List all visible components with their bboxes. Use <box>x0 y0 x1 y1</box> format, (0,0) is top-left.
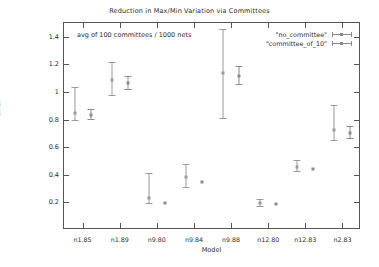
x-axis-tick-mark <box>120 223 121 228</box>
error-bar-cap-lower <box>124 89 131 90</box>
data-point <box>73 112 76 115</box>
legend-item: "no_committee" <box>266 30 353 39</box>
data-point <box>238 75 241 78</box>
legend-sample-errorbar-icon <box>331 40 353 47</box>
data-point <box>126 82 129 85</box>
y-axis-tick-mark <box>64 92 69 93</box>
y-axis-tick-label: 0.6 <box>29 143 59 151</box>
error-bar-cap-upper <box>124 76 131 77</box>
plot-inner: 0.20.40.60.811.21.4n1.85n1.89n9.80n9.84n… <box>64 23 359 228</box>
legend-item-label: "committee_of_10" <box>266 40 327 48</box>
chart-legend: "no_committee""committee_of_10" <box>266 30 353 48</box>
y-axis-tick-mark <box>64 120 69 121</box>
y-axis-tick-mark-right <box>354 64 359 65</box>
data-point <box>259 202 262 205</box>
error-bar-cap-upper <box>87 109 94 110</box>
x-axis-tick-mark-top <box>157 23 158 28</box>
plot-area: 0.20.40.60.811.21.4n1.85n1.89n9.80n9.84n… <box>63 22 360 229</box>
plot-annotation: avg of 100 committees / 1000 nets <box>77 31 191 39</box>
y-axis-tick-mark-right <box>354 37 359 38</box>
y-axis-tick-mark-right <box>354 175 359 176</box>
y-axis-tick-label: 1.4 <box>29 33 59 41</box>
x-axis-tick-label: n1.85 <box>74 236 92 243</box>
error-bar-cap-lower <box>220 118 227 119</box>
x-axis-tick-label: n9.84 <box>185 236 203 243</box>
error-bar-cap-upper <box>236 66 243 67</box>
y-axis-tick-label: 0.2 <box>29 198 59 206</box>
x-axis-label: Model <box>63 246 360 254</box>
chart-screenshot: Reduction in Max/Min Variation via Commi… <box>0 0 379 267</box>
data-point <box>89 113 92 116</box>
x-axis-tick-mark-top <box>231 23 232 28</box>
data-point <box>296 166 299 169</box>
x-axis-tick-mark-top <box>305 23 306 28</box>
x-axis-tick-mark-top <box>268 23 269 28</box>
legend-sample-errorbar-icon <box>331 31 353 38</box>
x-axis-tick-label: n12.83 <box>294 236 316 243</box>
y-axis-tick-mark-right <box>354 202 359 203</box>
error-bar-cap-lower <box>87 119 94 120</box>
legend-item: "committee_of_10" <box>266 39 353 48</box>
legend-item-label: "no_committee" <box>275 31 327 39</box>
y-axis-tick-mark <box>64 64 69 65</box>
x-axis-tick-mark-top <box>83 23 84 28</box>
x-axis-tick-label: n2.83 <box>333 236 351 243</box>
x-axis-tick-label: n9.80 <box>148 236 166 243</box>
chart-title: Reduction in Max/Min Variation via Commi… <box>0 7 379 15</box>
data-point <box>312 167 315 170</box>
error-bar-cap-lower <box>236 84 243 85</box>
error-bar-cap-lower <box>182 187 189 188</box>
y-axis-tick-label: 0.4 <box>29 171 59 179</box>
x-axis-tick-mark-top <box>194 23 195 28</box>
error-bar-cap-upper <box>71 87 78 88</box>
data-point <box>349 131 352 134</box>
data-point <box>147 196 150 199</box>
y-axis-tick-label: 1.2 <box>29 60 59 68</box>
x-axis-tick-mark <box>342 223 343 228</box>
y-axis-label: Error <box>0 100 2 116</box>
error-bar-cap-lower <box>108 95 115 96</box>
y-axis-tick-mark-right <box>354 92 359 93</box>
error-bar <box>334 105 335 140</box>
error-bar-cap-lower <box>257 206 264 207</box>
error-bar-cap-upper <box>257 199 264 200</box>
error-bar-cap-upper <box>182 164 189 165</box>
data-point <box>163 202 166 205</box>
data-point <box>275 203 278 206</box>
error-bar-cap-lower <box>331 140 338 141</box>
y-axis-tick-mark <box>64 175 69 176</box>
error-bar-cap-upper <box>145 173 152 174</box>
error-bar-cap-upper <box>294 160 301 161</box>
x-axis-tick-label: n1.89 <box>111 236 129 243</box>
error-bar-cap-lower <box>294 171 301 172</box>
y-axis-tick-mark <box>64 37 69 38</box>
data-point <box>222 72 225 75</box>
error-bar <box>74 87 75 120</box>
x-axis-tick-mark <box>305 223 306 228</box>
data-point <box>110 79 113 82</box>
error-bar-cap-upper <box>331 105 338 106</box>
x-axis-tick-mark-top <box>120 23 121 28</box>
x-axis-tick-label: n9.88 <box>222 236 240 243</box>
y-axis-tick-label: 0.8 <box>29 116 59 124</box>
data-point <box>184 175 187 178</box>
y-axis-tick-mark <box>64 202 69 203</box>
error-bar-cap-upper <box>220 29 227 30</box>
data-point <box>200 181 203 184</box>
error-bar-cap-upper <box>108 62 115 63</box>
x-axis-tick-mark <box>157 223 158 228</box>
y-axis-tick-mark-right <box>354 147 359 148</box>
x-axis-tick-mark <box>268 223 269 228</box>
y-axis-tick-mark-right <box>354 120 359 121</box>
error-bar-cap-lower <box>71 120 78 121</box>
x-axis-tick-mark <box>83 223 84 228</box>
x-axis-tick-mark <box>231 223 232 228</box>
error-bar-cap-lower <box>347 138 354 139</box>
error-bar-cap-lower <box>145 203 152 204</box>
data-point <box>333 128 336 131</box>
error-bar-cap-upper <box>347 126 354 127</box>
y-axis-tick-mark <box>64 147 69 148</box>
x-axis-tick-mark-top <box>342 23 343 28</box>
y-axis-tick-label: 1 <box>29 88 59 96</box>
x-axis-tick-label: n12.80 <box>257 236 279 243</box>
